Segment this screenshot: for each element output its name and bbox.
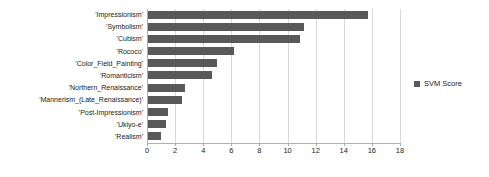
bar (147, 59, 217, 67)
tick-label-10: 10 (283, 146, 291, 155)
bar-row (147, 21, 400, 33)
category-label: 'Northern_Renaissance' (0, 84, 143, 92)
tick-label-16: 16 (368, 146, 376, 155)
legend-label: SVM Score (424, 79, 462, 88)
tick-label-12: 12 (311, 146, 319, 155)
bar (147, 35, 300, 43)
category-label: 'Realism' (0, 133, 143, 141)
bar-chart: 'Impressionism''Symbolism''Cubism''Rococ… (0, 0, 489, 177)
bar-row (147, 9, 400, 21)
bar-row (147, 131, 400, 143)
category-label: 'Post-Impressionism' (0, 109, 143, 117)
category-label: 'Symbolism' (0, 23, 143, 31)
category-label: 'Mannerism_(Late_Renaissance)' (0, 96, 143, 104)
bar (147, 23, 304, 31)
bar (147, 47, 234, 55)
bar-row (147, 82, 400, 94)
x-axis-line (147, 143, 401, 144)
category-label: 'Ukiyo-e' (0, 121, 143, 129)
bar-row (147, 46, 400, 58)
bar-row (147, 33, 400, 45)
bar (147, 132, 161, 140)
chart-legend: SVM Score (414, 79, 462, 88)
category-label: 'Rococo' (0, 48, 143, 56)
bar-series-svm-score (147, 9, 400, 143)
category-label: 'Color_Field_Painting' (0, 60, 143, 68)
category-label: 'Cubism' (0, 35, 143, 43)
category-label: 'Romanticism' (0, 72, 143, 80)
bar-row (147, 58, 400, 70)
tick-label-14: 14 (340, 146, 348, 155)
x-axis-tick-labels: 024681012141618 (147, 146, 401, 160)
y-axis-category-labels: 'Impressionism''Symbolism''Cubism''Rococ… (0, 9, 143, 143)
tick-label-8: 8 (257, 146, 261, 155)
bar-row (147, 94, 400, 106)
tick-label-6: 6 (229, 146, 233, 155)
bar (147, 96, 182, 104)
bar-row (147, 119, 400, 131)
bar (147, 71, 212, 79)
bar-row (147, 70, 400, 82)
tick-label-2: 2 (173, 146, 177, 155)
tick-label-4: 4 (201, 146, 205, 155)
tick-label-0: 0 (145, 146, 149, 155)
bar-row (147, 106, 400, 118)
category-label: 'Impressionism' (0, 11, 143, 19)
bar (147, 108, 168, 116)
bar (147, 120, 166, 128)
tick-label-18: 18 (396, 146, 404, 155)
bar (147, 84, 185, 92)
y-axis-line (147, 9, 148, 143)
gridline-18 (400, 9, 401, 143)
bar (147, 11, 368, 19)
legend-swatch-icon (414, 81, 420, 87)
